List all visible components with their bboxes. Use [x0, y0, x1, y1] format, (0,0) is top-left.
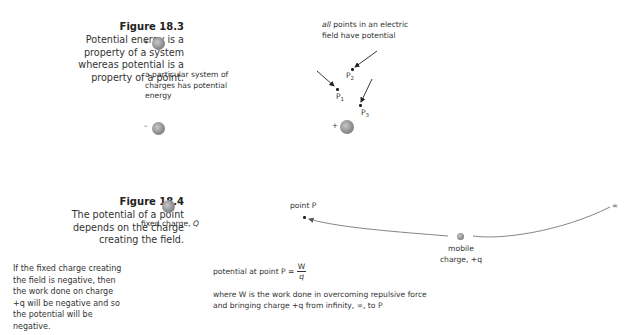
- note-line: the field is negative, then: [13, 275, 143, 287]
- point-p-label: point P: [290, 201, 316, 212]
- potential-formula: potential at point P = Wq: [213, 262, 306, 281]
- point-letter: P: [361, 108, 366, 117]
- explanation-line: where W is the work done in overcoming r…: [213, 290, 453, 301]
- point-letter: P: [346, 71, 351, 80]
- note-line: +q will be negative and so: [13, 298, 143, 310]
- denominator: q: [297, 272, 307, 281]
- explanation-line: and bringing charge +q from infinity, ∞,…: [213, 301, 453, 312]
- point-p1-label: P1: [336, 92, 344, 103]
- note-line: If the fixed charge creating: [13, 263, 143, 275]
- label-text: fixed charge,: [141, 219, 193, 228]
- formula-fraction: Wq: [297, 262, 307, 281]
- caption-line: creating the field.: [20, 234, 184, 247]
- mobile-charge-label: mobile charge, +q: [430, 244, 492, 265]
- label-line: charge, +q: [430, 255, 492, 266]
- point-letter: P: [336, 92, 341, 101]
- fixed-charge-label: fixed charge, Q: [141, 219, 199, 230]
- source-charge-icon: [340, 120, 354, 134]
- note-line: negative.: [13, 321, 143, 333]
- point-p2-label: P2: [346, 71, 354, 82]
- fixed-charge-icon: [162, 200, 175, 213]
- note-line: the work done on charge: [13, 286, 143, 298]
- note-line: the potential will be: [13, 309, 143, 321]
- charge-symbol: Q: [193, 219, 199, 228]
- positive-sign: +: [332, 122, 338, 130]
- numerator: W: [297, 262, 307, 272]
- negative-charge-side-note: If the fixed charge creating the field i…: [13, 263, 143, 332]
- formula-text: potential at point P =: [213, 267, 297, 276]
- point-subscript: 3: [366, 112, 370, 118]
- point-p3-label: P3: [361, 108, 369, 119]
- point-p3: [359, 104, 362, 107]
- point-subscript: 1: [341, 96, 345, 102]
- point-p: [303, 216, 306, 219]
- point-subscript: 2: [351, 75, 355, 81]
- formula-explanation: where W is the work done in overcoming r…: [213, 290, 453, 311]
- point-p1: [336, 88, 339, 91]
- mobile-charge-icon: [457, 233, 464, 240]
- infinity-symbol: ∞: [612, 202, 618, 210]
- label-line: mobile: [430, 244, 492, 255]
